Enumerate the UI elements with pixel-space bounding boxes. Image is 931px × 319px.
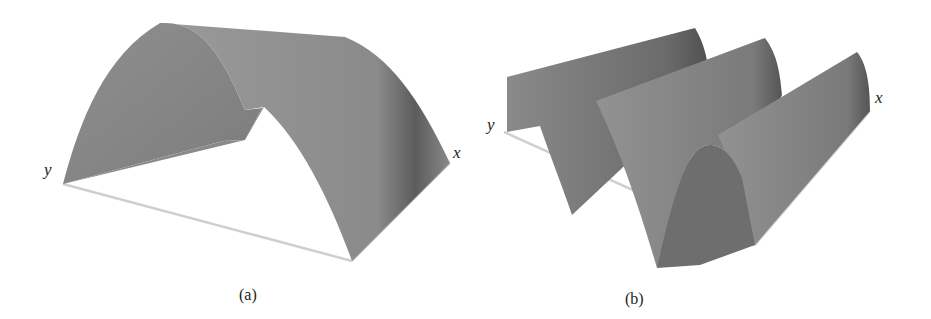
panel-a-base-edge-front [63,184,352,261]
panel-b-caption: (b) [625,290,644,308]
panel-a-surface [63,23,450,261]
panel-a-caption: (a) [239,286,257,304]
panel-a-x-axis-label: x [453,143,461,163]
panel-b-x-axis-label: x [875,88,883,108]
panel-b-y-axis-label: y [487,115,495,135]
figure-canvas [0,0,931,319]
panel-a-y-axis-label: y [44,160,52,180]
panel-b-surface [504,28,870,268]
